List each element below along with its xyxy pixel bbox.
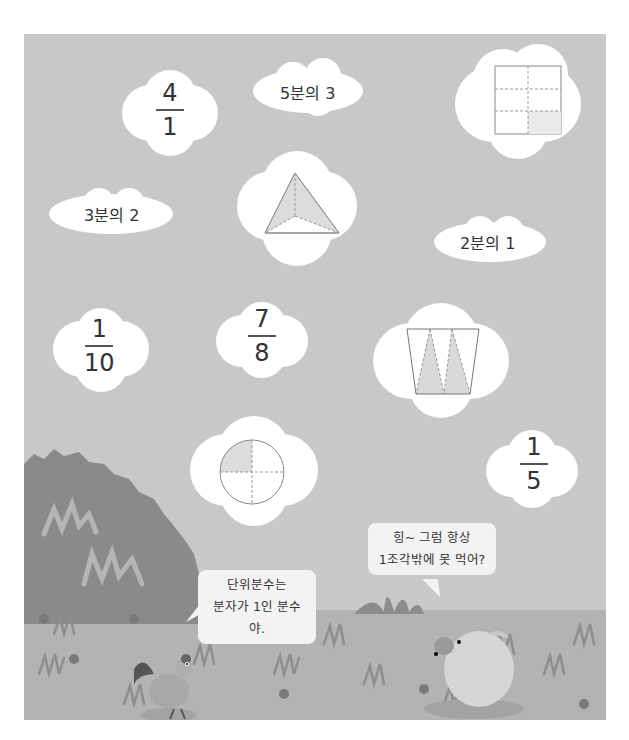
fraction: 7 8	[248, 306, 276, 366]
speech-line-2: 1조각밖에 못 먹어?	[378, 549, 486, 571]
cloud-text-2-1[interactable]: 2분의 1	[430, 210, 550, 270]
speech-line-1: 힝~ 그럼 항상	[378, 527, 486, 549]
numerator: 1	[526, 434, 541, 460]
denominator: 1	[162, 114, 177, 140]
fraction: 4 1	[156, 80, 184, 140]
fraction-bar	[156, 109, 184, 111]
pig-icon	[424, 624, 534, 719]
fraction-bar	[520, 463, 548, 465]
numerator: 7	[254, 306, 269, 332]
cloud-shape-circle[interactable]	[184, 412, 324, 527]
fraction-bar	[85, 345, 113, 347]
cloud-label: 2분의 1	[460, 230, 515, 254]
fraction: 1 5	[520, 434, 548, 494]
denominator: 8	[254, 340, 269, 366]
cloud-shape-triangle[interactable]	[232, 146, 362, 271]
plant-icon	[354, 582, 424, 617]
cloud-text-5-3[interactable]: 5분의 3	[248, 58, 368, 120]
numerator: 1	[92, 316, 107, 342]
speech-bubble-rooster: 단위분수는 분자가 1인 분수야.	[198, 570, 316, 644]
illustration-scene: 단위분수는 분자가 1인 분수야. 힝~ 그럼 항상 1조각밖에 못 먹어? 4…	[24, 34, 606, 720]
cloud-fraction-1-5[interactable]: 1 5	[480, 426, 585, 511]
fraction-bar	[248, 335, 276, 337]
rooster-icon	[129, 649, 204, 720]
bubble-tail-icon	[422, 579, 442, 599]
cloud-shape-rectangle[interactable]	[448, 44, 588, 159]
bubble-tail-icon	[186, 604, 206, 624]
cloud-shape-trapezoid[interactable]	[369, 296, 514, 421]
cloud-label: 5분의 3	[280, 80, 335, 104]
fraction: 1 10	[84, 316, 115, 376]
cloud-label: 3분의 2	[84, 202, 139, 226]
denominator: 10	[84, 350, 115, 376]
speech-bubble-pig: 힝~ 그럼 항상 1조각밖에 못 먹어?	[368, 523, 496, 575]
speech-line-1: 단위분수는	[208, 574, 306, 596]
numerator: 4	[162, 80, 177, 106]
cloud-fraction-1-10[interactable]: 1 10	[46, 304, 156, 394]
cloud-fraction-7-8[interactable]: 7 8	[210, 296, 315, 381]
cloud-text-3-2[interactable]: 3분의 2	[44, 182, 179, 242]
cloud-fraction-4-1[interactable]: 4 1	[110, 68, 230, 158]
speech-line-2: 분자가 1인 분수야.	[208, 596, 306, 640]
denominator: 5	[526, 468, 541, 494]
